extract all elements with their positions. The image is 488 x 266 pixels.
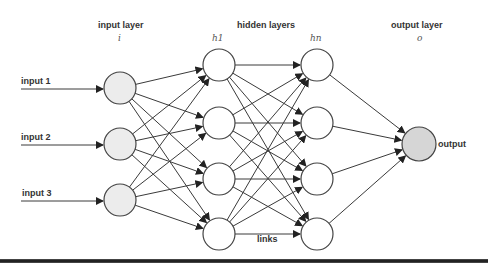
output-node-1 — [402, 127, 436, 161]
neural-network-diagram: input layer i hidden layers h1 hn output… — [0, 0, 488, 266]
hidden1-node-4 — [203, 218, 235, 250]
output-label: output — [438, 139, 466, 149]
input-2-label: input 2 — [21, 132, 51, 142]
input-3-label: input 3 — [22, 188, 52, 198]
links-label: links — [257, 234, 278, 244]
link-edge — [136, 69, 203, 85]
hidden-last-symbol: hn — [310, 33, 322, 43]
link-edge — [329, 156, 406, 224]
hiddenN-node-3 — [301, 163, 333, 195]
input-arrows — [21, 89, 103, 201]
input-layer-title: input layer — [98, 20, 144, 30]
input-layer-symbol: i — [118, 33, 121, 43]
link-edge — [333, 126, 402, 140]
input-node-3 — [104, 184, 136, 216]
hidden1-node-2 — [203, 107, 235, 139]
hiddenN-node-4 — [301, 218, 333, 250]
input-node-1 — [104, 72, 136, 104]
input-1-label: input 1 — [21, 76, 51, 86]
hiddenN-node-1 — [301, 49, 333, 81]
output-layer-title: output layer — [391, 20, 443, 30]
link-edge — [133, 133, 206, 190]
hidden-first-symbol: h1 — [212, 33, 224, 43]
output-layer-symbol: o — [417, 33, 423, 43]
link-edge — [133, 76, 206, 134]
hiddenN-node-2 — [301, 107, 333, 139]
hidden1-node-1 — [203, 49, 235, 81]
hidden1-node-3 — [203, 163, 235, 195]
link-edge — [129, 101, 209, 220]
link-edge — [332, 150, 402, 174]
bottom-divider — [0, 259, 488, 263]
hidden-layers-title: hidden layers — [237, 20, 295, 30]
link-edge — [135, 205, 203, 228]
link-edge — [132, 155, 207, 223]
links — [129, 65, 406, 234]
input-node-2 — [104, 128, 136, 160]
link-edge — [330, 75, 405, 133]
